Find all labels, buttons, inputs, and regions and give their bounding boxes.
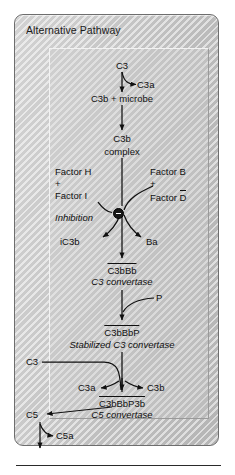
node-c3a-bottom: C3a bbox=[78, 382, 95, 393]
diagram-canvas: Alternative Pathway bbox=[0, 0, 235, 475]
node-c3b-microbe: C3b + microbe bbox=[91, 93, 153, 104]
node-c3a-top: C3a bbox=[137, 79, 154, 90]
node-stabilized-c3-convertase: Stabilized C3 convertase bbox=[69, 339, 174, 350]
node-c3b-complex-2: complex bbox=[104, 146, 139, 157]
node-c5a: C5a bbox=[56, 430, 73, 441]
page-title: Alternative Pathway bbox=[26, 24, 121, 36]
footer-divider bbox=[16, 465, 221, 466]
node-c3bbb: C3bBb bbox=[107, 263, 136, 276]
node-inhibition: Inhibition bbox=[55, 212, 93, 223]
node-c5: C5 bbox=[26, 409, 38, 420]
node-ic3b: iC3b bbox=[60, 236, 80, 247]
node-c3bbbp3b-text: C3bBbP3b bbox=[99, 396, 145, 409]
node-factor-i: Factor I bbox=[55, 190, 87, 201]
node-plus-left: + bbox=[55, 178, 61, 189]
node-p: P bbox=[156, 292, 162, 303]
node-c3bbbp: C3bBbP bbox=[104, 325, 139, 338]
node-c3b-bottom: C3b bbox=[147, 382, 164, 393]
node-c5-convertase: C5 convertase bbox=[91, 409, 152, 420]
node-factor-d: Factor D bbox=[150, 190, 186, 203]
node-c3bbb-text: C3bBb bbox=[107, 263, 136, 276]
node-c3-top: C3 bbox=[116, 60, 128, 71]
node-ba: Ba bbox=[146, 236, 158, 247]
node-factor-h: Factor H bbox=[55, 166, 91, 177]
node-plus-right: + bbox=[150, 178, 156, 189]
node-c3-convertase: C3 convertase bbox=[91, 276, 152, 287]
node-factor-d-bar: D bbox=[180, 190, 187, 203]
node-c3bbbp3b: C3bBbP3b bbox=[99, 396, 145, 409]
inhibition-minus-icon bbox=[113, 208, 124, 219]
node-c3bbbp-text: C3bBbP bbox=[104, 325, 139, 338]
node-factor-d-stem: Factor bbox=[150, 192, 180, 203]
node-c3b-complex-1: C3b bbox=[113, 133, 130, 144]
node-c3-left: C3 bbox=[26, 356, 38, 367]
node-factor-b: Factor B bbox=[150, 166, 186, 177]
